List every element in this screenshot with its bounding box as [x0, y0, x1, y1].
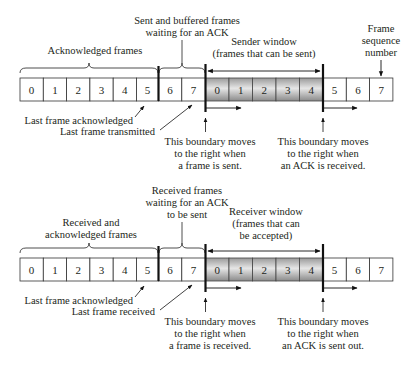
last-frame-received-label: Last frame received — [72, 306, 156, 317]
receiver-window-label-3: be accepted) — [240, 230, 293, 242]
receiver-window-label-1: Receiver window — [229, 206, 303, 217]
last-ack-arrow-icon — [135, 286, 144, 297]
right-boundary-note-3: an ACK is received. — [281, 160, 366, 171]
received-waiting-label-1: Received frames — [152, 185, 222, 196]
frame-number: 1 — [52, 264, 58, 276]
right-boundary-note-2: to the right when — [287, 148, 359, 159]
acknowledged-frames-label: Acknowledged frames — [48, 45, 143, 56]
frame-number: 3 — [285, 264, 291, 276]
buffered-frames-label-1: Sent and buffered frames — [134, 15, 240, 26]
frame-number: 7 — [191, 84, 197, 96]
frame-number: 5 — [332, 264, 338, 276]
frame-number: 3 — [99, 84, 105, 96]
sender-window-label-1: Sender window — [231, 36, 297, 47]
received-waiting-brace-icon — [159, 222, 205, 253]
last-rx-arrow-icon — [160, 285, 192, 310]
frame-seq-label-1: Frame — [368, 23, 395, 34]
frame-number: 2 — [261, 84, 267, 96]
left-boundary-note-3: a frame is received. — [169, 340, 251, 351]
received-waiting-label-3: to be sent — [167, 209, 207, 220]
sender-window-label-2: (frames that can be sent) — [212, 48, 316, 60]
left-boundary-note-2: to the right when — [174, 148, 246, 159]
receiver-window-label-2: (frames that can — [232, 218, 300, 230]
frame-number: 5 — [332, 84, 338, 96]
frame-seq-label-2: sequence — [362, 35, 401, 46]
right-boundary-note-1: This boundary moves — [278, 316, 369, 327]
frame-number: 4 — [122, 84, 128, 96]
frame-number: 4 — [308, 84, 314, 96]
frame-number: 5 — [145, 84, 151, 96]
last-tx-arrow-icon — [160, 105, 192, 130]
frame-number: 4 — [122, 264, 128, 276]
left-boundary-note-2: to the right when — [174, 328, 246, 339]
right-boundary-note-3: an ACK is sent out. — [282, 340, 364, 351]
last-frame-acknowledged-label: Last frame acknowledged — [25, 295, 134, 306]
frame-number: 1 — [238, 264, 244, 276]
frame-seq-label-3: number — [365, 47, 398, 58]
last-frame-transmitted-label: Last frame transmitted — [60, 126, 156, 137]
received-acknowledged-label-1: Received and — [63, 217, 121, 228]
sliding-window-diagram: Acknowledged frames Sent and buffered fr… — [0, 0, 418, 367]
received-acknowledged-brace-icon — [20, 243, 158, 253]
frame-number: 5 — [145, 264, 151, 276]
sender-panel: Acknowledged frames Sent and buffered fr… — [20, 15, 401, 171]
frame-number: 3 — [99, 264, 105, 276]
frame-number: 2 — [75, 84, 81, 96]
frame-number: 4 — [308, 264, 314, 276]
frame-number: 0 — [29, 84, 35, 96]
received-acknowledged-label-2: acknowledged frames — [45, 229, 137, 240]
received-waiting-label-2: waiting for an ACK — [145, 197, 229, 208]
buffered-brace-icon — [159, 40, 205, 73]
frame-number: 0 — [29, 264, 35, 276]
frame-number: 6 — [167, 84, 173, 96]
frame-number: 6 — [355, 84, 361, 96]
left-boundary-note-1: This boundary moves — [165, 316, 256, 327]
left-boundary-note-3: a frame is sent. — [178, 160, 242, 171]
right-boundary-note-1: This boundary moves — [278, 136, 369, 147]
frame-number: 2 — [75, 264, 81, 276]
last-ack-arrow-icon — [135, 106, 144, 117]
receiver-panel: Received and acknowledged frames Receive… — [20, 185, 393, 351]
frame-number: 7 — [378, 84, 384, 96]
buffered-frames-label-2: waiting for an ACK — [145, 27, 229, 38]
right-boundary-note-2: to the right when — [287, 328, 359, 339]
frame-number: 2 — [261, 264, 267, 276]
frame-number: 0 — [214, 264, 220, 276]
acknowledged-brace-icon — [20, 63, 158, 73]
frame-number: 7 — [378, 264, 384, 276]
frame-number: 6 — [355, 264, 361, 276]
frame-number: 3 — [285, 84, 291, 96]
frame-number: 1 — [52, 84, 58, 96]
last-frame-acknowledged-label: Last frame acknowledged — [25, 115, 134, 126]
frame-number: 0 — [214, 84, 220, 96]
frame-number: 6 — [167, 264, 173, 276]
left-boundary-note-1: This boundary moves — [165, 136, 256, 147]
frame-number: 1 — [238, 84, 244, 96]
frame-number: 7 — [191, 264, 197, 276]
